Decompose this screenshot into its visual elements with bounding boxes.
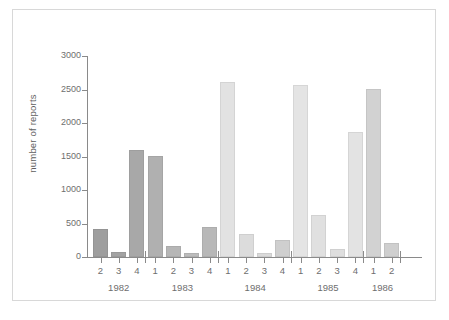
bar bbox=[166, 246, 181, 257]
bar bbox=[384, 243, 399, 257]
x-quarter-label: 4 bbox=[275, 265, 291, 276]
bar-series bbox=[87, 56, 422, 257]
bar bbox=[129, 150, 144, 257]
y-tick-label: 500 bbox=[41, 219, 81, 228]
bar bbox=[293, 85, 308, 257]
year-label: 1986 bbox=[358, 282, 408, 293]
x-tick bbox=[228, 258, 229, 263]
x-quarter-label: 1 bbox=[220, 265, 236, 276]
x-tick bbox=[119, 258, 120, 263]
x-quarter-label: 1 bbox=[293, 265, 309, 276]
bar bbox=[311, 215, 326, 257]
chart-figure: number of reports 0500100015002000250030… bbox=[12, 9, 436, 301]
bar bbox=[348, 132, 363, 257]
y-tick-label: 1500 bbox=[41, 152, 81, 161]
plot-area: number of reports 0500100015002000250030… bbox=[13, 10, 435, 300]
x-quarter-label: 3 bbox=[184, 265, 200, 276]
y-tick-label: 3000 bbox=[41, 51, 81, 60]
x-axis-year-labels: 19821983198419851986 bbox=[87, 282, 422, 296]
bar bbox=[148, 156, 163, 257]
x-tick bbox=[355, 258, 356, 263]
x-axis-quarter-labels: 23412341234123412 bbox=[87, 265, 422, 279]
bar bbox=[220, 82, 235, 257]
year-separator bbox=[363, 251, 364, 263]
year-label: 1985 bbox=[303, 282, 353, 293]
year-separator bbox=[400, 251, 401, 263]
year-label: 1984 bbox=[230, 282, 280, 293]
x-tick bbox=[137, 258, 138, 263]
bar bbox=[239, 234, 254, 257]
y-tick-label: 0 bbox=[41, 252, 81, 261]
x-quarter-label: 2 bbox=[311, 265, 327, 276]
x-tick bbox=[173, 258, 174, 263]
y-tick-label: 2000 bbox=[41, 118, 81, 127]
x-quarter-label: 3 bbox=[111, 265, 127, 276]
x-tick bbox=[210, 258, 211, 263]
bar bbox=[330, 249, 345, 257]
x-quarter-label: 2 bbox=[93, 265, 109, 276]
x-tick bbox=[319, 258, 320, 263]
x-tick bbox=[301, 258, 302, 263]
bar bbox=[184, 253, 199, 257]
x-tick bbox=[374, 258, 375, 263]
x-quarter-label: 2 bbox=[165, 265, 181, 276]
x-quarter-label: 4 bbox=[347, 265, 363, 276]
x-axis-ticks bbox=[87, 258, 422, 263]
y-tick-label: 2500 bbox=[41, 85, 81, 94]
x-quarter-label: 4 bbox=[202, 265, 218, 276]
x-quarter-label: 2 bbox=[384, 265, 400, 276]
x-quarter-label: 1 bbox=[147, 265, 163, 276]
year-separator bbox=[145, 251, 146, 263]
x-quarter-label: 1 bbox=[366, 265, 382, 276]
x-tick bbox=[155, 258, 156, 263]
x-tick bbox=[337, 258, 338, 263]
x-quarter-label: 2 bbox=[238, 265, 254, 276]
bar bbox=[275, 240, 290, 257]
x-quarter-label: 3 bbox=[256, 265, 272, 276]
x-tick bbox=[101, 258, 102, 263]
year-separator bbox=[218, 251, 219, 263]
y-tick-label: 1000 bbox=[41, 185, 81, 194]
x-tick bbox=[246, 258, 247, 263]
x-tick bbox=[192, 258, 193, 263]
bar bbox=[202, 227, 217, 257]
x-quarter-label: 3 bbox=[329, 265, 345, 276]
year-separator bbox=[291, 251, 292, 263]
bar bbox=[257, 253, 272, 257]
year-label: 1982 bbox=[94, 282, 144, 293]
x-tick bbox=[264, 258, 265, 263]
x-tick bbox=[283, 258, 284, 263]
bar bbox=[111, 252, 126, 257]
x-tick bbox=[392, 258, 393, 263]
year-label: 1983 bbox=[157, 282, 207, 293]
y-axis-tick-labels: 050010001500200025003000 bbox=[29, 10, 81, 300]
x-quarter-label: 4 bbox=[129, 265, 145, 276]
bar bbox=[93, 229, 108, 257]
bar bbox=[366, 89, 381, 257]
